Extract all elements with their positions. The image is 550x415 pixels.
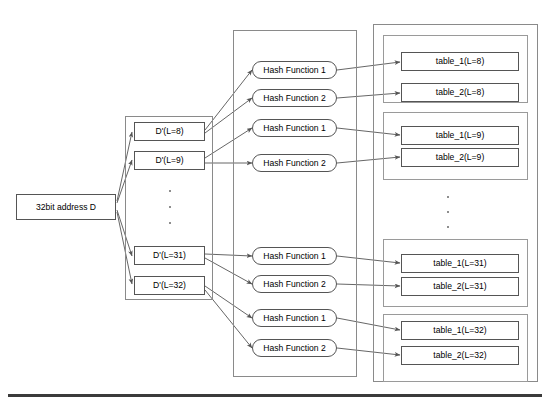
hash-function-1-group-3[interactable]: Hash Function 1 [252, 247, 337, 265]
table-group-frame-3 [383, 239, 528, 307]
hash-function-2-group-3[interactable]: Hash Function 2 [252, 275, 337, 293]
derived-column-ellipsis [168, 190, 172, 224]
hash-function-1-group-1[interactable]: Hash Function 1 [252, 61, 337, 79]
bottom-rule [8, 394, 542, 397]
table-1-l32[interactable]: table_1(L=32) [401, 321, 519, 340]
hash-function-2-group-2[interactable]: Hash Function 2 [252, 154, 337, 172]
hash-function-1-group-4[interactable]: Hash Function 1 [252, 309, 337, 327]
table-2-l9[interactable]: table_2(L=9) [401, 148, 519, 167]
table-2-l8[interactable]: table_2(L=8) [401, 83, 519, 102]
input-address-box[interactable]: 32bit address D [16, 194, 116, 220]
hash-function-2-group-4[interactable]: Hash Function 2 [252, 339, 337, 357]
table-1-l31[interactable]: table_1(L=31) [401, 254, 519, 273]
table-1-l8[interactable]: table_1(L=8) [401, 52, 519, 71]
hash-function-2-group-1[interactable]: Hash Function 2 [252, 89, 337, 107]
derived-box-l8[interactable]: D'(L=8) [134, 122, 205, 141]
derived-box-l32[interactable]: D'(L=32) [134, 276, 205, 295]
table-1-l9[interactable]: table_1(L=9) [401, 126, 519, 145]
derived-box-l9[interactable]: D'(L=9) [134, 151, 205, 170]
hash-function-1-group-2[interactable]: Hash Function 1 [252, 119, 337, 137]
table-2-l31[interactable]: table_2(L=31) [401, 277, 519, 296]
table-2-l32[interactable]: table_2(L=32) [401, 346, 519, 365]
table-group-frame-2 [383, 112, 528, 180]
diagram-canvas: 32bit address D D'(L=8) D'(L=9) D'(L=31)… [0, 0, 550, 415]
derived-box-l31[interactable]: D'(L=31) [134, 246, 205, 265]
table-column-ellipsis [446, 196, 450, 228]
